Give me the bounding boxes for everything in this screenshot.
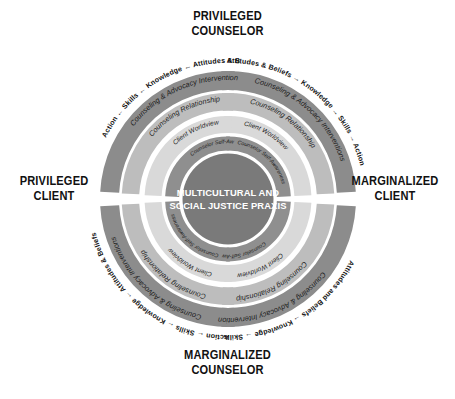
label-marginalized-client: MARGINALIZED CLIENT [347, 173, 442, 203]
label-marginalized-counselor: MARGINALIZED COUNSELOR [41, 347, 414, 377]
label-privileged-counselor: PRIVILEGED COUNSELOR [41, 8, 414, 38]
label-line-2: CLIENT [347, 188, 442, 203]
core-circle [183, 154, 274, 245]
label-line-2: COUNSELOR [41, 23, 414, 38]
label-line-2: CLIENT [11, 188, 96, 203]
label-privileged-client: PRIVILEGED CLIENT [11, 173, 96, 203]
label-line-1: PRIVILEGED [41, 8, 414, 23]
core-label-line1: MULTICULTURAL AND [177, 187, 280, 198]
core-label-line2: SOCIAL JUSTICE PRAXIS [169, 200, 286, 211]
label-line-1: PRIVILEGED [11, 173, 96, 188]
msjcc-diagram: MULTICULTURAL AND SOCIAL JUSTICE PRAXIS … [0, 0, 455, 399]
label-line-2: COUNSELOR [41, 362, 414, 377]
label-line-1: MARGINALIZED [41, 347, 414, 362]
label-line-1: MARGINALIZED [347, 173, 442, 188]
